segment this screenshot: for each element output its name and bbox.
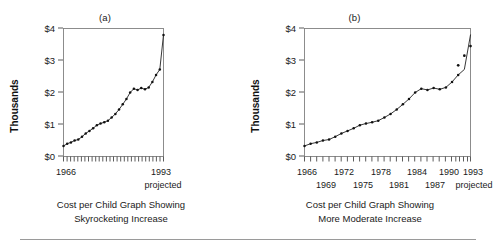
chart-a-xtick-sublabel-projected: projected <box>144 180 181 190</box>
bottom-divider <box>20 239 476 240</box>
chart-b-caption-line-2: More Moderate Increase <box>261 212 479 226</box>
chart-b-ytick-1: $1 <box>285 119 296 130</box>
chart-a-datapoints <box>62 34 165 148</box>
chart-b-xtick-label-1981: 1981 <box>389 180 409 190</box>
chart-a-ytick-3: $3 <box>44 55 55 66</box>
chart-a-ytick-1: $1 <box>44 119 55 130</box>
chart-b-plot: Thousands $4 $3 $2 $1 $0 <box>241 18 481 178</box>
chart-b-xtick-label-1990: 1990 <box>439 167 459 177</box>
chart-a-ytick-4: $4 <box>44 23 55 34</box>
chart-a-caption-line-1: Cost per Child Graph Showing <box>14 198 228 212</box>
chart-b-xtick-label-1984: 1984 <box>407 167 427 177</box>
chart-b-xtick-label-1969: 1969 <box>316 180 336 190</box>
chart-b-xtick-label-1972: 1972 <box>334 167 354 177</box>
chart-b-xtick-label-1993: 1993 <box>463 167 483 177</box>
chart-panel-b: (b) Thousands $4 $3 $2 $1 $0 <box>247 0 494 245</box>
chart-a-frame <box>64 29 164 157</box>
chart-b-ytick-3: $3 <box>285 55 296 66</box>
chart-b-xtick-label-1987: 1987 <box>425 180 445 190</box>
chart-b-ytick-4: $4 <box>285 23 296 34</box>
chart-b-ytick-2: $2 <box>285 87 296 98</box>
chart-a-caption: Cost per Child Graph Showing Skyrocketin… <box>14 198 228 225</box>
chart-panel-a: (a) Thousands $4 $3 $2 $1 $0 <box>0 0 247 245</box>
chart-b-ytick-marks <box>299 28 304 156</box>
chart-b-xtick-label-1978: 1978 <box>371 167 391 177</box>
chart-a-ytick-0: $0 <box>44 151 55 162</box>
chart-b-caption-line-1: Cost per Child Graph Showing <box>261 198 479 212</box>
chart-b-caption: Cost per Child Graph Showing More Modera… <box>261 198 479 225</box>
chart-a-xtick-marks <box>64 157 164 162</box>
chart-b-frame <box>305 29 471 157</box>
chart-b-xtick-label-1975: 1975 <box>353 180 373 190</box>
chart-b-projected-points <box>457 45 472 67</box>
chart-b-dataline <box>305 35 471 146</box>
chart-a-ytick-marks <box>58 28 63 156</box>
chart-b-xtick-sublabel-projected: projected <box>455 180 492 190</box>
chart-a-caption-line-2: Skyrocketing Increase <box>14 212 228 226</box>
figure-container: (a) Thousands $4 $3 $2 $1 $0 <box>0 0 494 251</box>
chart-b-ylabel: Thousands <box>250 79 261 133</box>
chart-a-ylabel: Thousands <box>9 79 20 133</box>
chart-b-datapoints <box>303 74 459 148</box>
chart-b-xtick-marks <box>305 157 471 162</box>
chart-a-xtick-label-1993: 1993 <box>151 167 171 177</box>
chart-a-dataline <box>64 35 164 146</box>
chart-a-xtick-label-1966: 1966 <box>56 167 76 177</box>
chart-b-xtick-label-1966: 1966 <box>297 167 317 177</box>
chart-a-ytick-2: $2 <box>44 87 55 98</box>
chart-b-ytick-0: $0 <box>285 151 296 162</box>
chart-a-plot: Thousands $4 $3 $2 $1 $0 <box>6 18 221 178</box>
